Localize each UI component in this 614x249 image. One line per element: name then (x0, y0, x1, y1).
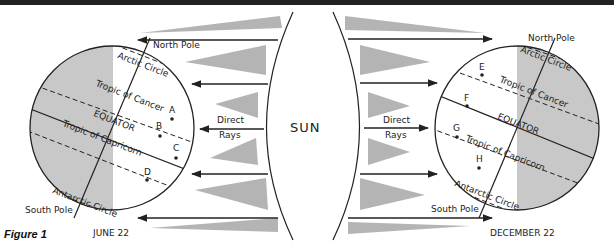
date-december: DECEMBER 22 (490, 228, 555, 238)
direct-rays-dec-1: Direct (383, 115, 410, 125)
direct-rays-june-2: Rays (219, 130, 241, 140)
point-b: B (156, 121, 162, 131)
north-pole-dec: North Pole (528, 33, 575, 43)
north-pole-june: North Pole (153, 40, 200, 50)
right-ray-shading (345, 16, 485, 234)
point-d: D (144, 167, 151, 177)
point-c: C (173, 143, 179, 153)
point-f: F (464, 93, 469, 103)
sun-label: SUN (290, 120, 321, 135)
point-e: E (479, 62, 485, 72)
point-a: A (169, 105, 175, 115)
point-g: G (453, 123, 460, 133)
direct-rays-dec-2: Rays (385, 130, 407, 140)
date-june: JUNE 22 (93, 228, 129, 238)
figure-label: Figure 1 (4, 228, 47, 240)
south-pole-dec: South Pole (431, 204, 479, 214)
sun-edge-right (333, 12, 360, 240)
direct-rays-june-1: Direct (217, 115, 244, 125)
point-h: H (476, 154, 483, 164)
globe-june (20, 40, 200, 220)
south-pole-june: South Pole (25, 205, 73, 215)
